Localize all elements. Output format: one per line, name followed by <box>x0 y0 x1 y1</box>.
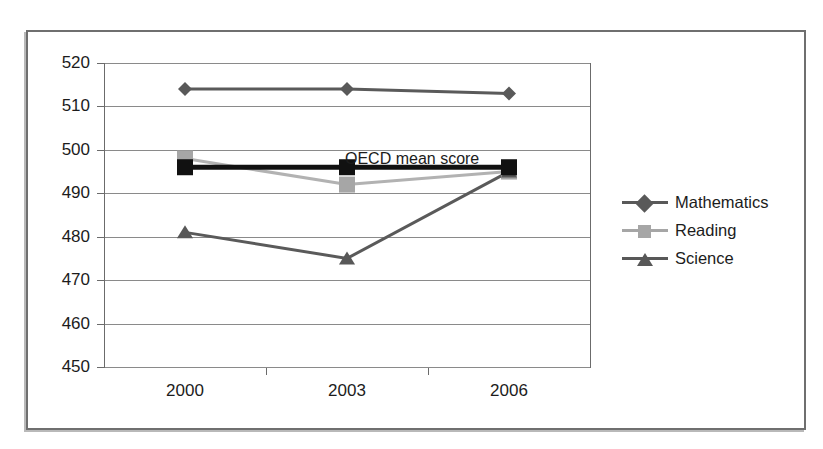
data-point-mathematics-2000 <box>178 82 192 96</box>
legend-label-science: Science <box>675 250 734 267</box>
data-point-oecd-mean-score-2000 <box>177 159 193 175</box>
data-point-mathematics-2006 <box>502 86 516 100</box>
triangle-icon <box>637 253 653 266</box>
chart-legend: Mathematics Reading Science <box>622 188 812 272</box>
legend-label-mathematics: Mathematics <box>675 194 769 211</box>
data-point-mathematics-2003 <box>340 82 354 96</box>
legend-marker-square-icon <box>622 221 668 239</box>
square-icon <box>638 225 651 238</box>
diamond-icon <box>635 194 653 212</box>
data-point-oecd-mean-score-2006 <box>501 159 517 175</box>
legend-item-mathematics[interactable]: Mathematics <box>622 188 812 216</box>
legend-marker-diamond-icon <box>622 193 668 211</box>
legend-marker-triangle-icon <box>622 249 668 267</box>
legend-label-reading: Reading <box>675 222 736 239</box>
oecd-mean-score-annotation: OECD mean score <box>345 151 479 167</box>
legend-item-science[interactable]: Science <box>622 244 812 272</box>
line-chart: 520510500490480470460450 200020032006 OE… <box>0 0 823 449</box>
data-point-reading-2003 <box>339 177 355 193</box>
legend-item-reading[interactable]: Reading <box>622 216 812 244</box>
